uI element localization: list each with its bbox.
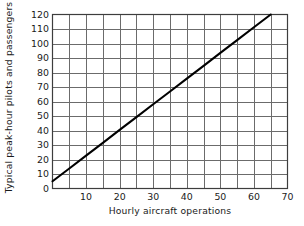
gridlines-vertical bbox=[70, 15, 272, 189]
chart-figure: Typical peak-hour pilots and passengers … bbox=[0, 0, 304, 226]
plot-area bbox=[0, 0, 304, 226]
x-axis-title: Hourly aircraft operations bbox=[52, 205, 288, 216]
